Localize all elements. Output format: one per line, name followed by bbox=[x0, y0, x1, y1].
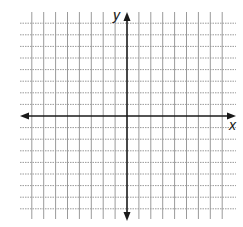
y-axis-up-arrow-icon bbox=[124, 12, 131, 21]
y-axis-label: y bbox=[112, 7, 121, 23]
x-axis-label: x bbox=[228, 117, 237, 133]
x-axis bbox=[20, 113, 236, 120]
x-axis-left-arrow-icon bbox=[20, 113, 29, 120]
y-axis-down-arrow-icon bbox=[124, 212, 131, 221]
coordinate-plane: y x bbox=[0, 0, 243, 227]
